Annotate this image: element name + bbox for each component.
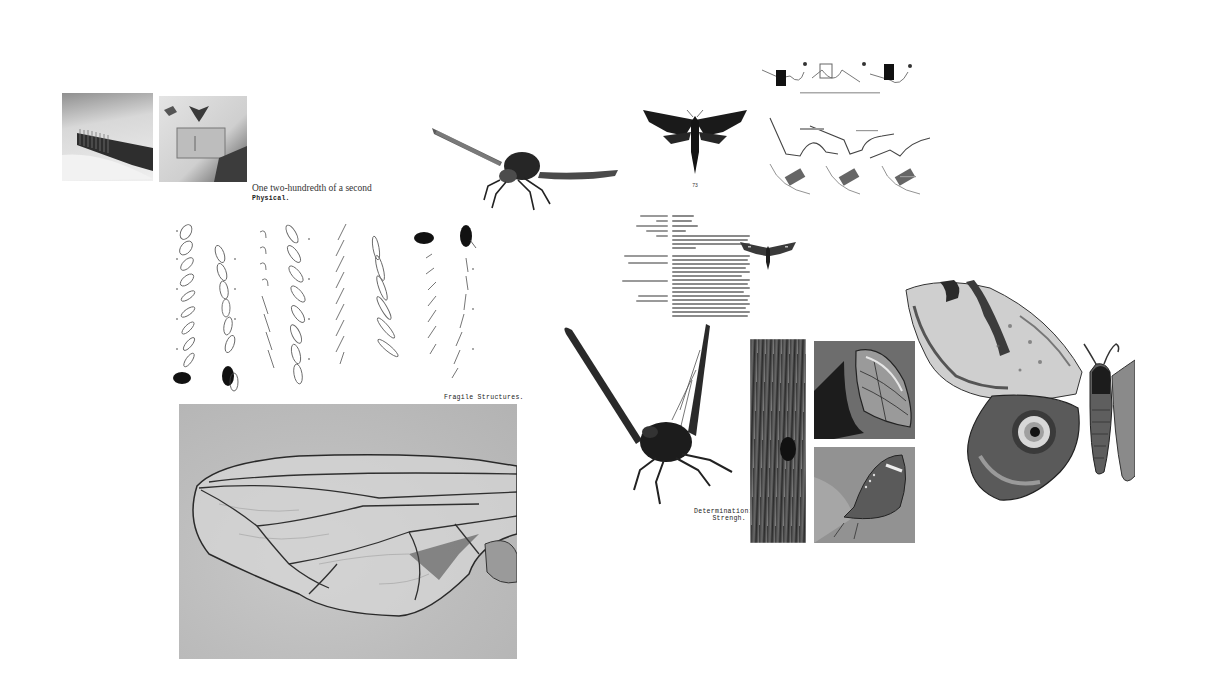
emperor-moth [900, 276, 1135, 506]
hawk-moth-plate: 73 [641, 108, 749, 190]
photo-spine-row [62, 93, 153, 181]
photo-icon [750, 339, 806, 543]
fragile-structures-label: Fragile Structures. [444, 394, 524, 401]
moth-icon [738, 238, 798, 274]
physical-label: Physical. [252, 195, 290, 202]
plate-number: 73 [641, 182, 749, 188]
flight-sequence [168, 218, 498, 393]
wing-icon [179, 404, 517, 659]
camouflage-bark-photo [750, 339, 806, 543]
photo-icon [62, 93, 153, 181]
determination-line-2: Strengh. [694, 515, 746, 522]
moth-icon [641, 108, 749, 176]
insect-icon [560, 320, 745, 510]
determination-label: Determination: Strengh. [694, 508, 746, 522]
diagram-icon [760, 58, 935, 203]
photo-caption: One two-hundredth of a second [252, 183, 372, 193]
wing-mechanism-diagram [760, 58, 935, 203]
insect-wings-raised [560, 320, 745, 510]
moth-fact-sheet [622, 212, 798, 322]
fly-in-flight [430, 124, 620, 219]
moth-icon [900, 276, 1135, 506]
determination-line-1: Determination: [694, 508, 746, 515]
sequence-icon [168, 218, 498, 393]
fly-wing-macro [179, 404, 517, 659]
moth-icon [159, 96, 247, 182]
insect-icon [430, 124, 620, 219]
photo-specimen-case [159, 96, 247, 182]
